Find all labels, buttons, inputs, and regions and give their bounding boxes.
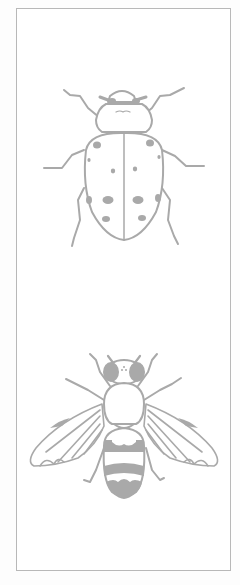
fly-abdomen	[104, 428, 145, 498]
beetle-elytra	[85, 133, 163, 240]
beetle-pronotum	[96, 104, 152, 132]
fly-thorax	[104, 383, 144, 428]
hoverfly	[30, 354, 217, 498]
illustration-canvas	[0, 0, 240, 585]
beetle-head	[100, 91, 146, 104]
ladybird-beetle	[44, 88, 204, 246]
fly-head	[103, 356, 145, 384]
